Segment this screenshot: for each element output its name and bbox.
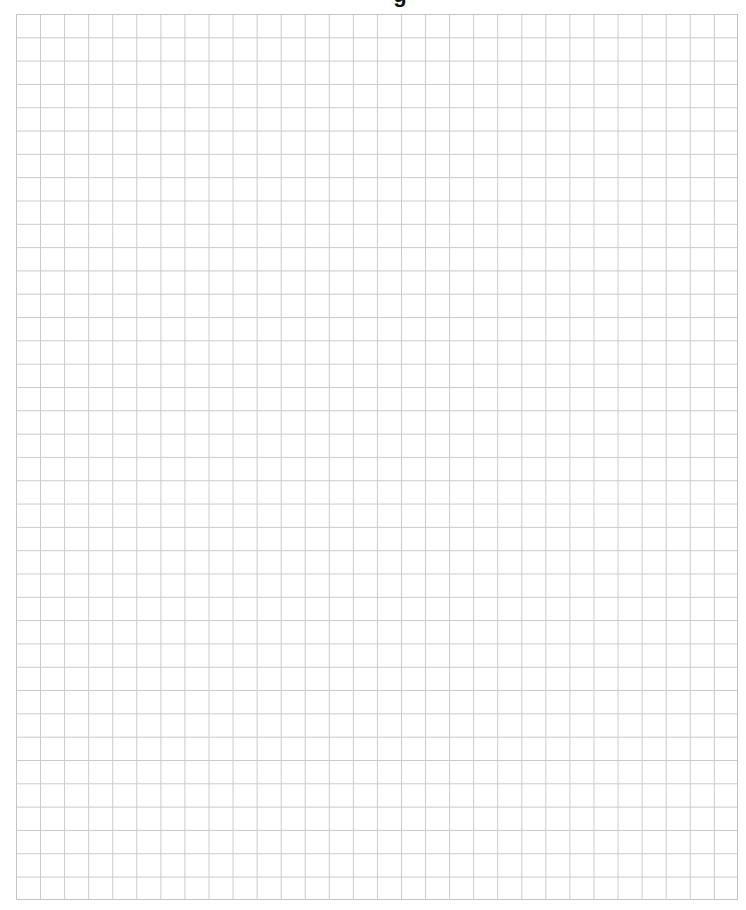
page-heading-clipped: g [0,0,746,6]
graph-paper-page: g [0,0,746,910]
grid-area [16,14,738,900]
